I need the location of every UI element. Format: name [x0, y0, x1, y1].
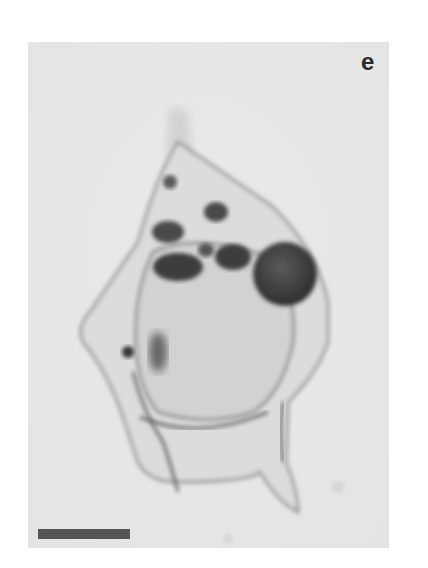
specimen-image: [28, 42, 389, 548]
micrograph-panel: e: [28, 42, 389, 548]
scale-bar: [38, 529, 130, 539]
panel-label: e: [361, 50, 374, 74]
